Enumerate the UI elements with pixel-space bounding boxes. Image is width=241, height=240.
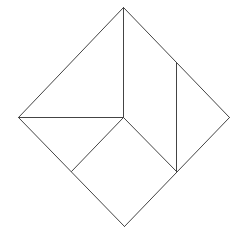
tangram-diagram [0,0,241,240]
diagram-svg [0,0,241,240]
